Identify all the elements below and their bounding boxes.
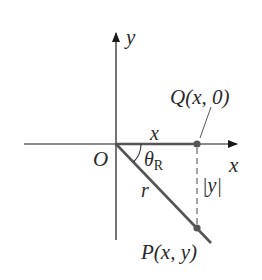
point-p (193, 224, 200, 231)
y-axis-label: y (124, 25, 136, 49)
radius-label: r (141, 179, 149, 201)
point-q-label: Q(x, 0) (170, 85, 229, 109)
point-p-coords: (x, y) (154, 240, 197, 264)
point-q-name: Q (170, 85, 185, 109)
q-leader-line (200, 107, 211, 138)
angle-arc-icon (134, 144, 142, 162)
point-p-name: P (140, 240, 154, 264)
point-p-label: P(x, y) (140, 240, 197, 264)
point-q-coords: (x, 0) (185, 85, 229, 109)
reference-angle-diagram: y x O x r |y| θR Q(x, 0) P(x, y) (0, 0, 262, 280)
point-q (193, 140, 200, 147)
horizontal-segment-label: x (149, 122, 159, 144)
angle-subscript: R (154, 158, 164, 173)
origin-label: O (93, 147, 108, 171)
vertical-segment-label: |y| (202, 174, 222, 197)
angle-symbol: θ (144, 148, 154, 170)
x-axis-label: x (228, 153, 239, 177)
angle-label: θR (144, 148, 164, 173)
